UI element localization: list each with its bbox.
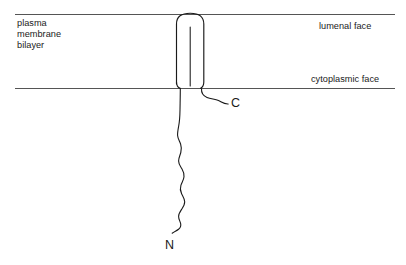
diagram-canvas: plasma membrane bilayer lumenal face cyt… — [0, 0, 406, 265]
n-terminus-label: N — [165, 238, 174, 252]
lumenal-face-label: lumenal face — [319, 21, 371, 32]
cytoplasmic-face-label: cytoplasmic face — [311, 74, 379, 85]
n-terminus-chain — [172, 89, 185, 234]
c-terminus-chain — [201, 89, 228, 105]
c-terminus-label: C — [231, 96, 240, 110]
plasma-membrane-bilayer-label: plasma membrane bilayer — [17, 18, 61, 52]
transmembrane-helix-left-foot — [177, 82, 181, 88]
